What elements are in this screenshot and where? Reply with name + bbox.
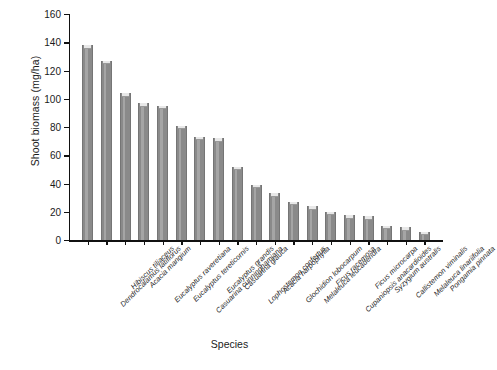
bar: [157, 106, 168, 240]
bar-highlight: [272, 193, 275, 240]
bar-highlight: [366, 216, 369, 240]
bar: [82, 45, 93, 240]
bar-highlight: [310, 206, 313, 240]
bar: [251, 185, 262, 240]
bar-error-cap: [365, 216, 372, 220]
y-tick: [64, 184, 69, 185]
bar-error-cap: [327, 212, 334, 216]
y-tick: [64, 212, 69, 213]
y-tick-label: 160: [44, 9, 61, 20]
bar-highlight: [160, 106, 163, 240]
bar: [194, 137, 205, 240]
bar-error-cap: [383, 226, 390, 230]
bar: [419, 232, 430, 240]
bar-highlight: [141, 103, 144, 240]
bar-error-cap: [178, 126, 185, 130]
bar: [307, 206, 318, 240]
y-tick: [64, 127, 69, 128]
bar: [400, 227, 411, 240]
bar-error-cap: [234, 167, 241, 171]
y-tick: [64, 14, 69, 15]
y-tick-label: 80: [50, 122, 61, 133]
y-tick-label: 120: [44, 65, 61, 76]
bar-highlight: [197, 137, 200, 240]
y-tick-label: 100: [44, 93, 61, 104]
bar-highlight: [85, 45, 88, 240]
bar-error-cap: [122, 93, 129, 97]
bar-error-cap: [402, 227, 409, 231]
bar-highlight: [104, 61, 107, 240]
plot-area: 020406080100120140160: [69, 14, 443, 240]
bar: [138, 103, 149, 240]
bar-error-cap: [309, 206, 316, 210]
bar-error-cap: [271, 193, 278, 197]
bar: [101, 61, 112, 240]
bar-error-cap: [290, 202, 297, 206]
bar-error-cap: [84, 45, 91, 49]
bar: [120, 93, 131, 240]
y-tick: [64, 155, 69, 156]
y-tick-label: 140: [44, 37, 61, 48]
x-axis-category-labels: Dendrocalamus latiflorusHibiscus tiliace…: [69, 242, 459, 342]
bar: [381, 226, 392, 240]
bar-error-cap: [140, 103, 147, 107]
bar-highlight: [179, 126, 182, 240]
bar: [269, 193, 280, 240]
y-tick-label: 20: [50, 206, 61, 217]
y-tick: [64, 99, 69, 100]
y-tick-label: 40: [50, 178, 61, 189]
bar-highlight: [235, 167, 238, 240]
y-axis-title: Shoot biomass (mg/ha): [29, 31, 41, 191]
bar: [344, 215, 355, 240]
bar: [213, 138, 224, 240]
bar: [363, 216, 374, 240]
y-tick: [64, 71, 69, 72]
bar-error-cap: [421, 232, 428, 236]
y-tick-label: 0: [55, 235, 61, 246]
bar-highlight: [123, 93, 126, 240]
bar-error-cap: [103, 61, 110, 65]
bar-highlight: [347, 215, 350, 240]
bar-error-cap: [196, 137, 203, 141]
bar-error-cap: [215, 138, 222, 142]
y-tick: [64, 42, 69, 43]
bar: [176, 126, 187, 240]
bar-highlight: [216, 138, 219, 240]
bar-highlight: [291, 202, 294, 240]
bar-highlight: [328, 212, 331, 240]
bar: [325, 212, 336, 240]
y-tick-label: 60: [50, 150, 61, 161]
bar-error-cap: [159, 106, 166, 110]
bar-highlight: [254, 185, 257, 240]
bar: [232, 167, 243, 240]
bar-series: [69, 14, 443, 240]
bar-error-cap: [346, 215, 353, 219]
bar: [288, 202, 299, 240]
bar-error-cap: [253, 185, 260, 189]
